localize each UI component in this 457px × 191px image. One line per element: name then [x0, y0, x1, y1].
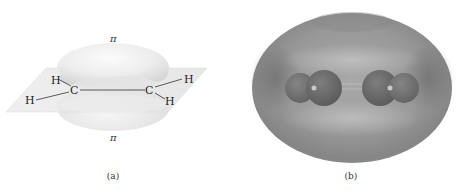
hydrogen-atom-right	[389, 73, 419, 103]
pi-bond-illustration: H C H C H H π π	[0, 0, 228, 191]
hydrogen-upper-right-label: H	[184, 73, 194, 86]
carbon-atom-left	[306, 70, 342, 106]
hydrogen-upper-left-label: H	[51, 74, 61, 87]
carbon-left-label: C	[70, 84, 78, 97]
hydrogen-lower-right-label: H	[165, 95, 175, 108]
caption-b: (b)	[345, 171, 358, 181]
panel-b-electron-density-model: (b)	[228, 0, 457, 191]
pi-bottom-label: π	[109, 132, 117, 143]
hydrogen-lower-left-label: H	[25, 94, 35, 107]
panel-a-pi-bond-diagram: H C H C H H π π (a)	[0, 0, 228, 191]
electron-density-illustration	[228, 0, 457, 191]
pi-top-label: π	[109, 33, 117, 44]
caption-a: (a)	[107, 171, 119, 181]
carbon-right-label: C	[145, 84, 153, 97]
